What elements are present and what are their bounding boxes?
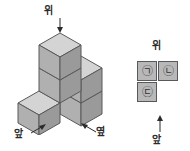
top-view-label-front: 앞: [152, 134, 161, 145]
isometric-cube-figure: [0, 30, 120, 135]
grid-cell-r0c0: ㉠: [137, 61, 157, 81]
cell-mark-b: ㉡: [163, 66, 174, 77]
grid-cell-r1c0: ㉢: [137, 82, 157, 102]
arrow-down-icon: [54, 18, 66, 34]
grid-cell-r0c1: ㉡: [158, 61, 178, 81]
figure-label-front: 앞: [14, 128, 23, 139]
arrow-diagonal-front-icon: [29, 123, 47, 135]
arrow-up-icon: [154, 114, 166, 132]
top-view-label-top: 위: [152, 40, 161, 51]
cell-mark-c: ㉢: [142, 87, 153, 98]
isometric-cube-svg: [0, 30, 120, 135]
top-view-grid: ㉠ ㉡ ㉢: [137, 61, 181, 105]
figure-label-side: 옆: [96, 126, 105, 137]
diagram-canvas: 위 앞 옆 위 ㉠ ㉡ ㉢ 앞: [0, 0, 190, 151]
figure-label-top: 위: [44, 5, 53, 16]
cell-mark-a: ㉠: [142, 66, 153, 77]
grid-cell-r1c1-empty: [158, 82, 178, 102]
